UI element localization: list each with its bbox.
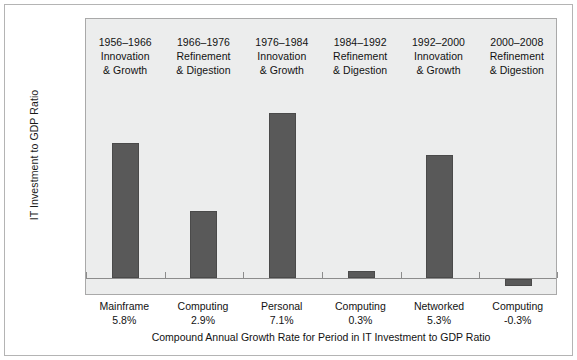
plot-area: 1956–1966 Innovation & Growth 1966–1976 …: [85, 18, 557, 295]
x-axis-tick: [557, 272, 558, 278]
x-axis-tick-labels: Mainframe 5.8% Computing 2.9% Personal 7…: [85, 299, 557, 327]
x-tick-label: Computing 0.3%: [321, 299, 400, 327]
category-value: 7.1%: [242, 313, 321, 327]
category-name: Mainframe: [85, 299, 164, 313]
bar: [269, 113, 296, 278]
x-tick-label: Personal 7.1%: [242, 299, 321, 327]
bar-slot: [401, 19, 480, 294]
bar: [112, 143, 139, 278]
category-value: 5.8%: [85, 313, 164, 327]
y-axis-title: IT Investment to GDP Ratio: [28, 55, 40, 255]
x-tick-label: Computing -0.3%: [478, 299, 557, 327]
bar: [348, 271, 375, 278]
bar-slot: [322, 19, 401, 294]
category-name: Networked: [400, 299, 479, 313]
bar-slot: [243, 19, 322, 294]
x-tick-label: Networked 5.3%: [400, 299, 479, 327]
x-axis-title: Compound Annual Growth Rate for Period i…: [85, 331, 557, 343]
x-tick-label: Computing 2.9%: [164, 299, 243, 327]
chart-figure: IT Investment to GDP Ratio 1956–1966 Inn…: [0, 0, 577, 360]
bar-slot: [479, 19, 558, 294]
bars-area: [86, 19, 556, 294]
category-value: 2.9%: [164, 313, 243, 327]
category-name: Personal: [242, 299, 321, 313]
x-tick-label: Mainframe 5.8%: [85, 299, 164, 327]
category-name: Computing: [164, 299, 243, 313]
category-value: -0.3%: [478, 313, 557, 327]
category-value: 5.3%: [400, 313, 479, 327]
category-name: Computing: [478, 299, 557, 313]
bar: [190, 211, 217, 278]
bar-slot: [86, 19, 165, 294]
bar-slot: [165, 19, 244, 294]
x-axis-baseline: [86, 278, 556, 279]
bar: [426, 155, 453, 278]
category-name: Computing: [321, 299, 400, 313]
bar: [505, 279, 532, 286]
category-value: 0.3%: [321, 313, 400, 327]
